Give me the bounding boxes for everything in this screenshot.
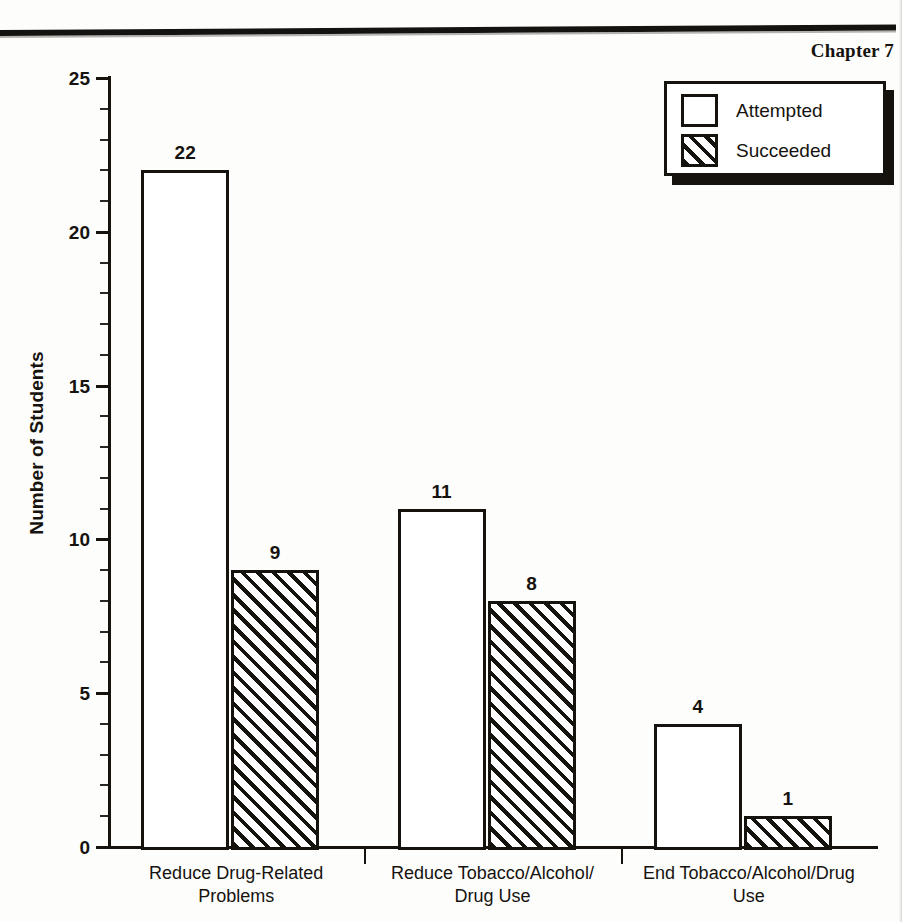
y-tick-major — [96, 846, 108, 849]
bar-succeeded-1 — [231, 570, 319, 850]
y-tick-minor — [100, 200, 108, 202]
y-tick-label-text: 10 — [69, 529, 90, 550]
x-category-label-line: Use — [621, 885, 877, 908]
y-tick-minor — [100, 569, 108, 571]
bar-value-label: 11 — [398, 482, 486, 501]
y-tick-label: 20 — [40, 222, 90, 244]
y-tick-label-text: 20 — [69, 222, 90, 243]
y-tick-label-text: 0 — [79, 837, 90, 858]
bar-value-label: 1 — [744, 789, 832, 808]
y-tick-minor — [100, 108, 108, 110]
legend-swatch-succeeded — [681, 134, 718, 167]
y-tick-minor — [100, 815, 108, 817]
y-tick-minor — [100, 477, 108, 479]
legend-item-succeeded: Succeeded — [681, 134, 831, 167]
y-tick-major — [96, 77, 108, 80]
x-category-separator — [621, 849, 623, 864]
y-tick-minor — [100, 169, 108, 171]
legend-label-succeeded: Succeeded — [736, 140, 831, 162]
y-tick-minor — [100, 600, 108, 602]
y-tick-label-text: 25 — [69, 68, 90, 89]
x-category-label-1: Reduce Drug-RelatedProblems — [108, 862, 364, 908]
bar-succeeded-2 — [488, 601, 576, 850]
y-tick-minor — [100, 446, 108, 448]
bar-attempted-1 — [141, 170, 229, 850]
y-tick-minor — [100, 139, 108, 141]
bar-chart: 0510152025 Number of Students 22911841 R… — [0, 0, 902, 922]
x-category-label-line: Drug Use — [364, 885, 620, 908]
y-tick-minor — [100, 262, 108, 264]
y-tick-minor — [100, 508, 108, 510]
y-tick-major — [96, 538, 108, 541]
document-page: Chapter 7 0510152025 Number of Students … — [0, 0, 902, 922]
bar-value-label: 22 — [141, 143, 229, 162]
y-tick-label: 0 — [40, 837, 90, 859]
y-tick-label-text: 15 — [69, 376, 90, 397]
y-tick-label: 5 — [40, 683, 90, 705]
y-axis-title: Number of Students — [26, 333, 48, 553]
y-tick-minor — [100, 784, 108, 786]
y-tick-label-text: 5 — [79, 683, 90, 704]
x-category-label-2: Reduce Tobacco/Alcohol/Drug Use — [364, 862, 620, 908]
x-category-label-line: Reduce Tobacco/Alcohol/ — [364, 862, 620, 885]
y-tick-minor — [100, 661, 108, 663]
x-category-label-line: Reduce Drug-Related — [108, 862, 364, 885]
bar-attempted-2 — [398, 509, 486, 850]
y-tick-minor — [100, 354, 108, 356]
y-tick-major — [96, 231, 108, 234]
x-category-label-3: End Tobacco/Alcohol/DrugUse — [621, 862, 877, 908]
y-tick-minor — [100, 723, 108, 725]
y-tick-minor — [100, 415, 108, 417]
x-category-separator — [364, 849, 366, 864]
bar-succeeded-3 — [744, 816, 832, 850]
y-tick-major — [96, 692, 108, 695]
y-tick-minor — [100, 754, 108, 756]
y-axis-line — [108, 76, 111, 849]
y-tick-minor — [100, 631, 108, 633]
y-tick-minor — [100, 292, 108, 294]
legend-label-attempted: Attempted — [736, 100, 823, 122]
bar-value-label: 4 — [654, 697, 742, 716]
y-tick-label: 25 — [40, 68, 90, 90]
chart-legend: Attempted Succeeded — [664, 81, 886, 176]
x-category-label-line: Problems — [108, 885, 364, 908]
y-tick-minor — [100, 323, 108, 325]
bar-value-label: 9 — [231, 543, 319, 562]
legend-swatch-attempted — [681, 94, 718, 127]
bar-attempted-3 — [654, 724, 742, 850]
y-tick-major — [96, 385, 108, 388]
bar-value-label: 8 — [488, 574, 576, 593]
legend-item-attempted: Attempted — [681, 94, 823, 127]
x-category-label-line: End Tobacco/Alcohol/Drug — [621, 862, 877, 885]
